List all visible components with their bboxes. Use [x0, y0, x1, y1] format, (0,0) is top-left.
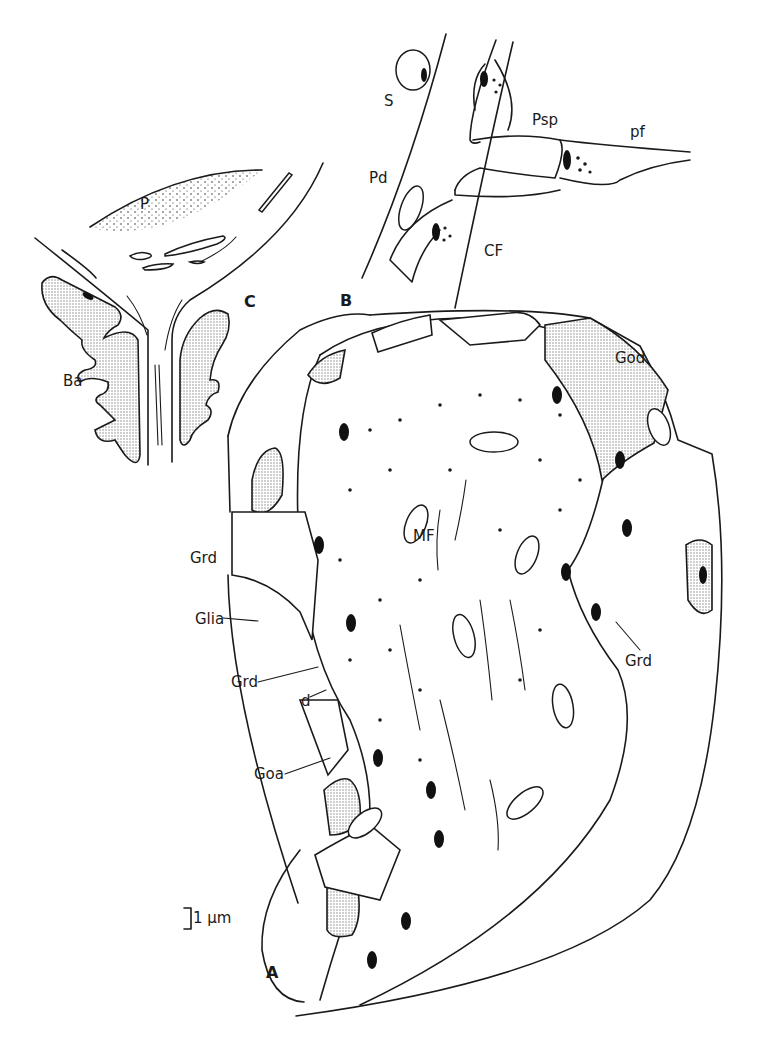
leader-lines: [0, 0, 763, 1038]
